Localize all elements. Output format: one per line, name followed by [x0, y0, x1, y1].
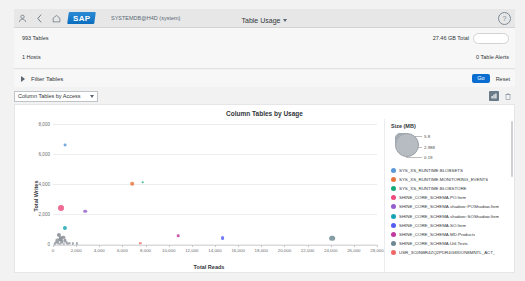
data-point[interactable] — [84, 209, 88, 213]
reset-button[interactable]: Reset — [496, 76, 510, 82]
x-axis-tick: 20,000 — [278, 248, 291, 253]
legend-item[interactable]: SHINE_CORE_SCHEMA.MD.Products — [391, 230, 510, 239]
x-axis-tickmark — [377, 245, 378, 247]
legend-item[interactable]: SHINE_CORE_SCHEMA.SO.Item — [391, 221, 510, 230]
legend-item-label: SHINE_CORE_SCHEMA.PO.Item — [399, 195, 466, 200]
y-axis-tick: 4,000 — [39, 182, 51, 187]
legend-item[interactable]: SHINE_CORE_SCHEMA.shadow::POShadow.Item — [391, 202, 510, 211]
data-point[interactable] — [329, 236, 335, 242]
size-bar — [473, 33, 509, 44]
legend-item-label: SHINE_CORE_SCHEMA.shadow::POShadow.Item — [399, 204, 499, 209]
y-axis-tick: 6,000 — [39, 152, 51, 157]
chevron-down-icon — [283, 19, 287, 22]
data-point[interactable] — [141, 181, 144, 184]
x-axis-tickmark — [354, 245, 355, 247]
size-legend-value-min: 0.19 — [424, 155, 433, 160]
trash-icon[interactable] — [503, 91, 513, 101]
legend-item[interactable]: SHINE_CORE_SCHEMA.PO.Item — [391, 193, 510, 202]
x-axis-tick: 2,000 — [71, 248, 82, 253]
x-axis-tickmark — [146, 245, 147, 247]
scatter-plot-area[interactable]: 02,0004,0006,0008,00002,0004,0006,0008,0… — [53, 125, 377, 246]
legend-item[interactable]: SYS_XS_RUNTIME.BLOBSETS — [391, 166, 510, 175]
summary-right-bottom: 0 Table Alerts — [476, 54, 509, 60]
summary-row-hosts: 1 Hosts 0 Table Alerts — [22, 49, 509, 65]
data-point[interactable] — [130, 182, 134, 186]
legend-scrollbar[interactable] — [511, 121, 513, 177]
legend-item-label: USR_3C0NBR4ZQ2PDR4G8XION8MNTL_ACT_ — [399, 250, 495, 255]
chevron-left-icon[interactable] — [31, 10, 48, 27]
shell-right-actions: ? — [498, 12, 515, 25]
selector-row: Column Tables by Access — [14, 89, 515, 103]
filter-actions: Go Reset — [472, 74, 510, 83]
x-axis-tickmark — [76, 245, 77, 247]
chevron-right-icon[interactable] — [21, 76, 25, 82]
legend-color-dot — [391, 168, 396, 173]
legend-color-dot — [391, 177, 396, 182]
plot-region: Total Writes Total Reads 02,0004,0006,00… — [15, 119, 383, 272]
legend-item[interactable]: USR_3C0NBR4ZQ2PDR4G8XION8MNTL_ACT_ — [391, 248, 510, 257]
data-point[interactable] — [177, 234, 180, 237]
legend-item[interactable]: SYS_XS_RUNTIME.BLOBSTORE — [391, 184, 510, 193]
legend-color-dot — [391, 223, 396, 228]
chevron-down-icon — [90, 95, 94, 98]
data-point[interactable] — [58, 205, 64, 211]
data-point[interactable] — [64, 144, 67, 147]
size-legend-value-mid: 2.988 — [424, 145, 435, 150]
size-legend-circle-max — [395, 133, 419, 157]
x-axis-label: Total Reads — [41, 264, 377, 270]
person-icon[interactable] — [14, 10, 31, 27]
page-title-dropdown[interactable]: Table Usage — [242, 17, 288, 24]
go-button[interactable]: Go — [472, 74, 489, 83]
chart-title: Column Tables by Usage — [15, 110, 514, 117]
x-axis-tick: 16,000 — [231, 248, 244, 253]
y-axis-tick: 2,000 — [39, 212, 51, 217]
filter-tables-label: Filter Tables — [31, 76, 63, 82]
hosts-count: 1 Hosts — [22, 54, 41, 60]
help-icon[interactable]: ? — [498, 12, 511, 25]
grid-line: 4,000 — [53, 184, 377, 185]
total-size: 27.46 GB Total — [433, 35, 469, 41]
chart-panel: Column Tables by Usage Total Writes Tota… — [14, 104, 515, 273]
x-axis-tickmark — [53, 245, 54, 247]
x-axis-tickmark — [284, 245, 285, 247]
x-axis-tick: 12,000 — [185, 248, 198, 253]
filter-bar[interactable]: Filter Tables Go Reset — [14, 70, 515, 87]
size-legend-value-max: 5.8 — [424, 134, 430, 139]
home-icon[interactable] — [48, 10, 65, 27]
legend-color-dot — [391, 250, 396, 255]
grid-line: 2,000 — [53, 214, 377, 215]
shell-bar: SAP SYSTEMDB@H4D (system) Table Usage ? — [14, 9, 515, 28]
data-point[interactable] — [221, 236, 225, 240]
legend-item[interactable]: SHINE_CORE_SCHEMA.shadow::SOShadow.Item — [391, 211, 510, 220]
x-axis-tick: 4,000 — [94, 248, 105, 253]
grid-line: 6,000 — [53, 154, 377, 155]
x-axis-tick: 0 — [52, 248, 54, 253]
sap-logo[interactable]: SAP — [67, 12, 96, 24]
chart-settings-icon[interactable] — [489, 91, 499, 101]
legend-color-dot — [391, 186, 396, 191]
x-axis-tick: 14,000 — [208, 248, 221, 253]
view-select[interactable]: Column Tables by Access — [14, 91, 98, 102]
x-axis-tick: 26,000 — [347, 248, 360, 253]
legend-color-dot — [391, 241, 396, 246]
legend-item[interactable]: SHINE_CORE_SCHEMA.Util.Texts — [391, 239, 510, 248]
legend-item-label: SHINE_CORE_SCHEMA.Util.Texts — [399, 241, 468, 246]
x-axis-tickmark — [308, 245, 309, 247]
bubble-size-legend: 5.82.9880.19 — [391, 131, 510, 163]
data-point[interactable] — [62, 226, 66, 230]
legend-item[interactable]: SYS_XS_RUNTIME.MONITORING_EVENTS — [391, 175, 510, 184]
chart-legend: Size (MB) 5.82.9880.19 SYS_XS_RUNTIME.BL… — [384, 119, 514, 272]
legend-color-dot — [391, 232, 396, 237]
x-axis-tick: 28,000 — [370, 248, 383, 253]
size-legend-title: Size (MB) — [391, 123, 510, 129]
x-axis-tick: 22,000 — [301, 248, 314, 253]
x-axis-tickmark — [122, 245, 123, 247]
view-select-value: Column Tables by Access — [18, 93, 81, 99]
x-axis-tickmark — [331, 245, 332, 247]
table-usage-app: SAP SYSTEMDB@H4D (system) Table Usage ? … — [0, 0, 525, 281]
x-axis-tickmark — [215, 245, 216, 247]
y-axis-tick: 0 — [47, 242, 50, 247]
x-axis-tickmark — [261, 245, 262, 247]
data-point-cluster[interactable] — [67, 243, 69, 245]
legend-item-label: SYS_XS_RUNTIME.BLOBSTORE — [399, 186, 467, 191]
